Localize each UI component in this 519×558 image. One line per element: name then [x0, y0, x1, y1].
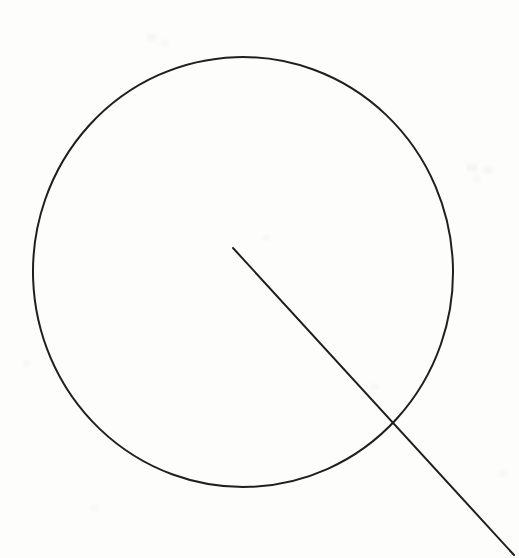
- drawing-canvas: [0, 0, 519, 558]
- radius-line-shape: [233, 248, 514, 555]
- figure-svg: [0, 0, 519, 558]
- circle-shape: [26, 50, 461, 494]
